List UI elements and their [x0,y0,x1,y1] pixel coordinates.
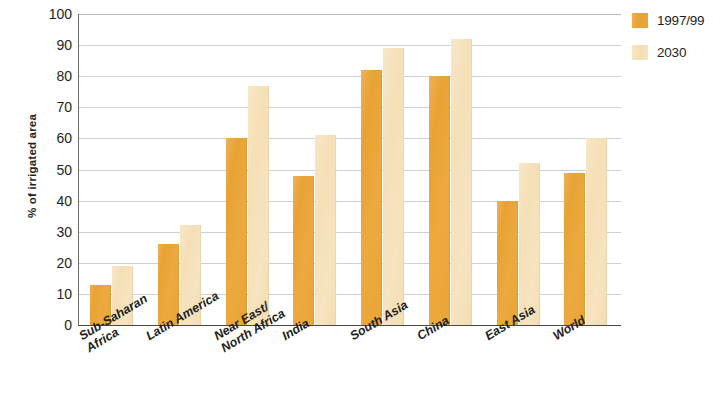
bar[interactable] [248,86,269,325]
legend-swatch-icon [632,13,648,28]
bar[interactable] [586,138,607,325]
y-tick-label: 10 [28,287,72,301]
legend-label: 2030 [657,45,686,60]
bar[interactable] [226,138,247,325]
y-tick-label: 100 [28,7,72,21]
bar-group [90,14,133,325]
y-axis-tick-labels: 0102030405060708090100 [28,0,72,340]
y-tick-label: 90 [28,38,72,52]
bar-chart: % of irrigated area 01020304050607080901… [0,0,727,419]
y-tick-label: 50 [28,163,72,177]
chart-legend: 1997/992030 [632,9,727,73]
y-tick-label: 70 [28,100,72,114]
y-tick-label: 60 [28,131,72,145]
y-tick-label: 20 [28,256,72,270]
y-tick-label: 0 [28,318,72,332]
y-tick-label: 80 [28,69,72,83]
legend-item[interactable]: 2030 [632,41,727,63]
bar[interactable] [564,173,585,325]
legend-item[interactable]: 1997/99 [632,9,727,31]
y-tick-label: 30 [28,225,72,239]
bar[interactable] [497,201,518,325]
legend-swatch-icon [632,45,648,60]
y-tick-label: 40 [28,194,72,208]
legend-label: 1997/99 [657,13,704,28]
